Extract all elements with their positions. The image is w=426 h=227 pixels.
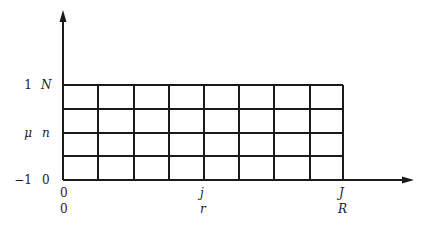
mesh-grid xyxy=(63,85,343,180)
y-axis-arrow-icon xyxy=(60,10,67,22)
y-value-label-bottom: −1 xyxy=(4,174,32,186)
x-value-label-mid: r xyxy=(200,203,206,215)
x-index-label-mid: j xyxy=(200,187,204,199)
x-index-label-end: J xyxy=(339,187,344,199)
x-value-label-start: 0 xyxy=(60,203,68,215)
y-index-label-top: N xyxy=(41,79,52,91)
y-value-label-top: 1 xyxy=(4,79,32,91)
y-value-label-mid: μ xyxy=(4,127,32,139)
x-value-label-end: R xyxy=(338,203,347,215)
y-index-label-bottom: 0 xyxy=(42,174,50,186)
x-index-label-start: 0 xyxy=(60,187,68,199)
y-index-label-mid: n xyxy=(42,127,50,139)
x-axis-arrow-icon xyxy=(402,177,414,184)
